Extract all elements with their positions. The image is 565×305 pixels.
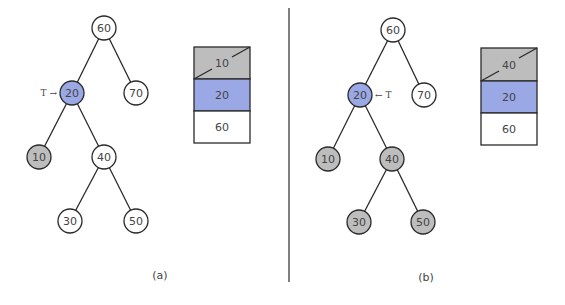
node-label: 30 bbox=[63, 215, 77, 228]
tree-node-70: 70 bbox=[124, 81, 148, 105]
tree-node-30: 30 bbox=[347, 210, 371, 234]
stack-a: 10 20 60 bbox=[194, 47, 250, 143]
tree-edges-b bbox=[328, 30, 424, 222]
tree-node-40: 40 bbox=[380, 147, 404, 171]
tree-node-10: 10 bbox=[27, 145, 51, 169]
node-label: 50 bbox=[416, 216, 430, 229]
stack-cell-label: 60 bbox=[502, 123, 516, 136]
node-label: 10 bbox=[32, 151, 46, 164]
panel-b: 60 20 70 10 40 30 50 ← T bbox=[316, 18, 537, 284]
pointer-t-label: ← T bbox=[375, 90, 391, 100]
node-label: 20 bbox=[65, 87, 79, 100]
node-label: 60 bbox=[386, 24, 400, 37]
caption-a: (a) bbox=[152, 269, 167, 282]
caption-b: (b) bbox=[418, 271, 434, 284]
tree-node-60: 60 bbox=[381, 18, 405, 42]
node-label: 70 bbox=[129, 87, 143, 100]
node-label: 20 bbox=[353, 89, 367, 102]
tree-node-10: 10 bbox=[316, 147, 340, 171]
tree-node-20: 20 bbox=[348, 83, 372, 107]
stack-cell-label: 60 bbox=[215, 121, 229, 134]
tree-node-40: 40 bbox=[92, 145, 116, 169]
tree-node-50: 50 bbox=[124, 209, 148, 233]
tree-node-50: 50 bbox=[411, 210, 435, 234]
diagram-canvas: 60 20 70 10 40 30 50 T → bbox=[0, 0, 565, 305]
stack-cell-label: 20 bbox=[502, 91, 516, 104]
node-label: 40 bbox=[97, 151, 111, 164]
node-label: 30 bbox=[352, 216, 366, 229]
node-label: 50 bbox=[129, 215, 143, 228]
stack-cell-label: 40 bbox=[502, 59, 516, 72]
tree-node-20: 20 bbox=[60, 81, 84, 105]
panel-a: 60 20 70 10 40 30 50 T → bbox=[27, 16, 250, 282]
tree-node-30: 30 bbox=[58, 209, 82, 233]
node-label: 10 bbox=[321, 153, 335, 166]
node-label: 60 bbox=[97, 22, 111, 35]
stack-b: 40 20 60 bbox=[481, 48, 537, 145]
tree-node-70: 70 bbox=[412, 83, 436, 107]
stack-cell-label: 20 bbox=[215, 89, 229, 102]
tree-node-60: 60 bbox=[92, 16, 116, 40]
node-label: 40 bbox=[385, 153, 399, 166]
node-label: 70 bbox=[417, 89, 431, 102]
stack-cell-label: 10 bbox=[215, 57, 229, 70]
pointer-t-label: T → bbox=[41, 88, 58, 98]
tree-edges-a bbox=[39, 28, 136, 221]
